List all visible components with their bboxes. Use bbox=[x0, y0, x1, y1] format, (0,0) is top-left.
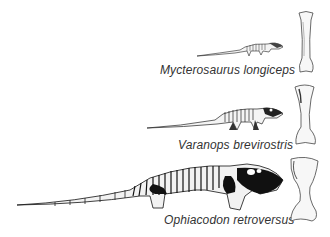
species-label-ophiacodon: Ophiacodon retroversus bbox=[164, 213, 294, 227]
skeleton-mycterosaurus bbox=[195, 38, 285, 60]
species-label-mycterosaurus: Mycterosaurus longiceps bbox=[160, 63, 295, 77]
skeleton-ophiacodon bbox=[15, 150, 285, 212]
humerus-ophiacodon bbox=[288, 155, 322, 223]
humerus-mycterosaurus bbox=[295, 10, 317, 74]
figure: Mycterosaurus longiceps Varanops breviro… bbox=[0, 0, 330, 237]
humerus-varanops bbox=[292, 83, 318, 147]
skeleton-varanops bbox=[145, 100, 285, 134]
